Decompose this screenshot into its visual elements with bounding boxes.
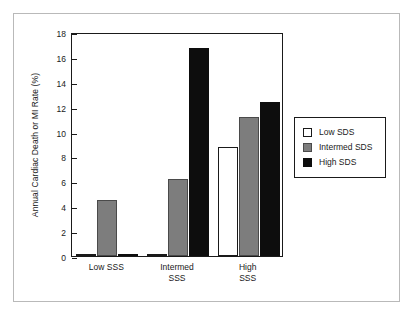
x-axis-category-label: Intermed SSS xyxy=(160,262,194,284)
bar xyxy=(260,102,280,256)
figure-root: Annual Cardiac Death or MI Rate (%) 0246… xyxy=(0,0,416,316)
x-axis-category-label: Low SSS xyxy=(89,262,124,273)
legend-swatch-icon xyxy=(303,158,312,167)
bar xyxy=(189,48,209,256)
chart-legend: Low SDSIntermed SDSHigh SDS xyxy=(294,117,386,178)
bar xyxy=(118,254,138,256)
bar xyxy=(239,117,259,256)
bar xyxy=(76,254,96,256)
legend-item: Intermed SDS xyxy=(303,140,377,155)
x-axis-labels: Low SSSIntermed SSSHigh SSS xyxy=(71,262,283,302)
bar xyxy=(97,200,117,256)
legend-item: High SDS xyxy=(303,155,377,170)
plot-area: 024681012141618 xyxy=(71,33,283,257)
legend-item-label: Low SDS xyxy=(319,128,354,137)
bars-layer xyxy=(72,34,282,256)
bar xyxy=(168,179,188,256)
legend-swatch-icon xyxy=(303,143,312,152)
bar xyxy=(218,147,238,257)
x-axis-category-label: High SSS xyxy=(230,262,265,284)
legend-item-label: High SDS xyxy=(319,158,356,167)
y-axis-title: Annual Cardiac Death or MI Rate (%) xyxy=(28,33,42,257)
legend-swatch-icon xyxy=(303,128,312,137)
bar xyxy=(147,254,167,256)
legend-item: Low SDS xyxy=(303,125,377,140)
legend-item-label: Intermed SDS xyxy=(319,143,372,152)
